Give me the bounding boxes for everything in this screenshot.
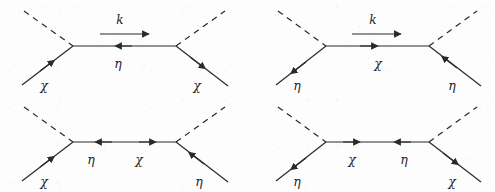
leg-upper-right-dashed <box>176 11 225 46</box>
diagram-top-left: k η χ χ <box>22 11 228 93</box>
leg-lower-right-arrow-icon <box>443 153 456 163</box>
leg-upper-left-dashed <box>24 11 73 46</box>
leg-lower-left-label: χ <box>39 78 49 93</box>
propagator-label: η <box>114 56 122 71</box>
leg-lower-right-label: η <box>448 78 456 93</box>
propagator-label-right: η <box>400 152 408 167</box>
momentum-label: k <box>116 13 123 27</box>
leg-lower-right-label: η <box>195 174 203 189</box>
momentum-label: k <box>369 13 376 27</box>
diagram-bottom-right: χ η η χ <box>276 107 481 189</box>
propagator-label: χ <box>373 56 383 71</box>
propagator-label-right: χ <box>134 152 144 167</box>
leg-lower-right-arrow-icon <box>444 58 457 68</box>
leg-upper-left-dashed <box>278 107 326 142</box>
leg-lower-left-label: η <box>293 174 301 189</box>
leg-upper-right-dashed <box>429 11 477 46</box>
leg-lower-right-arrow-icon <box>190 57 203 67</box>
leg-lower-left-arrow-icon <box>293 62 306 72</box>
leg-upper-right-dashed <box>176 107 225 142</box>
diagram-bottom-left: η χ χ η <box>22 107 228 189</box>
leg-lower-left-arrow-icon <box>40 62 52 71</box>
leg-lower-left-label: χ <box>39 174 49 189</box>
leg-lower-left-arrow-icon <box>40 158 52 167</box>
propagator-label-left: χ <box>347 152 357 167</box>
feynman-diagram-figure: k η χ χ k χ η η <box>0 0 495 192</box>
leg-upper-right-dashed <box>429 107 477 142</box>
leg-lower-left-label: η <box>293 78 301 93</box>
leg-lower-right-label: χ <box>447 174 457 189</box>
diagram-top-right: k χ η η <box>276 11 481 93</box>
leg-upper-left-dashed <box>278 11 326 46</box>
leg-lower-right-arrow-icon <box>191 154 204 164</box>
diagram-canvas: k η χ χ k χ η η <box>0 0 495 192</box>
leg-upper-left-dashed <box>24 107 73 142</box>
propagator-label-left: η <box>87 152 95 167</box>
leg-lower-left-arrow-icon <box>293 158 306 168</box>
leg-lower-right-label: χ <box>192 78 202 93</box>
